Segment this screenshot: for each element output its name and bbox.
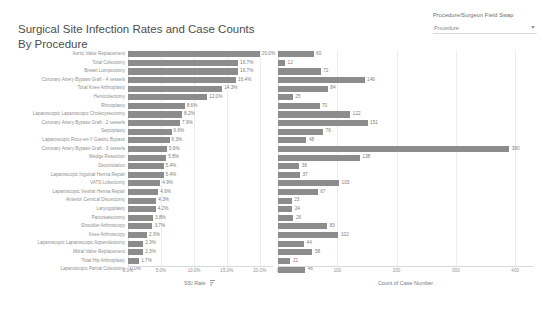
- axis-tick-label: 0.0%: [123, 268, 133, 273]
- case-count-bar[interactable]: [278, 206, 292, 212]
- chart-row[interactable]: Aortic Valve Replacement20.0%60: [0, 50, 543, 59]
- chart-row[interactable]: Coronary Artery Bypass Graft - 4 vessels…: [0, 76, 543, 85]
- ssi-rate-bar[interactable]: [128, 137, 170, 143]
- case-count-bar[interactable]: [278, 172, 300, 178]
- case-count-bar[interactable]: [278, 51, 314, 57]
- ssi-rate-bar[interactable]: [128, 241, 143, 247]
- case-count-bar[interactable]: [278, 223, 327, 229]
- chart-row[interactable]: Total Colectomy16.7%12: [0, 59, 543, 68]
- chart-row[interactable]: Septoplasty6.6%76: [0, 127, 543, 136]
- case-count-bar[interactable]: [278, 180, 339, 186]
- ssi-rate-bar[interactable]: [128, 146, 167, 152]
- field-swap-dropdown[interactable]: Procedure: [433, 23, 537, 34]
- chart-row[interactable]: Laparoscopic Ventral Hernia Repair4.6%67: [0, 188, 543, 197]
- chart-row[interactable]: Laparoscopic Laparoscopic Appendectomy2.…: [0, 239, 543, 248]
- chart-row[interactable]: Hemicolectomy12.0%25: [0, 93, 543, 102]
- ssi-rate-bar[interactable]: [128, 60, 238, 66]
- row-category-label: Shoulder Arthroscopy: [0, 222, 128, 231]
- ssi-rate-value-label: 4.2%: [158, 205, 169, 214]
- case-count-cell: 37: [278, 171, 533, 180]
- ssi-rate-bar[interactable]: [128, 249, 143, 255]
- case-count-bar[interactable]: [278, 258, 290, 264]
- chart-row[interactable]: Breast Lumpectomy16.7%72: [0, 67, 543, 76]
- chart-row[interactable]: Decortication5.4%36: [0, 162, 543, 171]
- chart-row[interactable]: Knee Arthroscopy2.9%102: [0, 231, 543, 240]
- chart-row[interactable]: Rhinoplasty8.6%70: [0, 102, 543, 111]
- chart-row[interactable]: Total Knee Arthroplasty14.3%84: [0, 84, 543, 93]
- ssi-rate-bar[interactable]: [128, 198, 156, 204]
- case-count-cell: 25: [278, 93, 533, 102]
- ssi-rate-bar[interactable]: [128, 189, 158, 195]
- ssi-rate-cell: 4.6%: [128, 188, 273, 197]
- ssi-rate-bar[interactable]: [128, 68, 238, 74]
- chart-row[interactable]: Shoulder Arthroscopy3.7%83: [0, 222, 543, 231]
- ssi-rate-value-label: 20.0%: [262, 50, 275, 59]
- chart-row[interactable]: Anterior Cervical Discectomy4.3%23: [0, 196, 543, 205]
- case-count-bar[interactable]: [278, 189, 318, 195]
- case-count-bar[interactable]: [278, 163, 299, 169]
- ssi-rate-bar[interactable]: [128, 172, 164, 178]
- ssi-rate-value-label: 6.3%: [172, 136, 183, 145]
- case-count-bar[interactable]: [278, 146, 509, 152]
- case-count-value-label: 151: [370, 119, 378, 128]
- chart-row[interactable]: VATS Lobectomy4.9%103: [0, 179, 543, 188]
- ssi-rate-bar[interactable]: [128, 120, 180, 126]
- chart-row[interactable]: Laryngoplasty4.2%24: [0, 205, 543, 214]
- chart-row[interactable]: Wedge Resection5.8%138: [0, 153, 543, 162]
- ssi-rate-bar[interactable]: [128, 215, 153, 221]
- ssi-rate-bar[interactable]: [128, 155, 166, 161]
- ssi-rate-bar[interactable]: [128, 77, 236, 83]
- case-count-bar[interactable]: [278, 137, 306, 143]
- chart-row[interactable]: Laparoscopic Inguinal Hernia Repair5.4%3…: [0, 171, 543, 180]
- ssi-rate-bar[interactable]: [128, 163, 164, 169]
- case-count-bar[interactable]: [278, 120, 368, 126]
- ssi-rate-cell: 3.8%: [128, 214, 273, 223]
- ssi-rate-bar[interactable]: [128, 129, 172, 135]
- case-count-value-label: 60: [316, 50, 321, 59]
- case-count-bar[interactable]: [278, 249, 312, 255]
- ssi-rate-cell: 5.4%: [128, 171, 273, 180]
- case-count-value-label: 25: [295, 93, 300, 102]
- chart-row[interactable]: Laparoscopic Laparoscopic Cholecystectom…: [0, 110, 543, 119]
- row-category-label: VATS Lobectomy: [0, 179, 128, 188]
- case-count-bar[interactable]: [278, 129, 323, 135]
- case-count-bar[interactable]: [278, 77, 365, 83]
- case-count-bar[interactable]: [278, 241, 304, 247]
- ssi-rate-bar[interactable]: [128, 223, 152, 229]
- field-swap-filter-label: Procedure/Surgeon Field Swap: [433, 12, 537, 18]
- axis-tick-label: 200: [393, 268, 401, 273]
- case-count-value-label: 72: [323, 67, 328, 76]
- case-count-bar[interactable]: [278, 111, 350, 117]
- ssi-rate-bar[interactable]: [128, 94, 207, 100]
- ssi-rate-bar[interactable]: [128, 232, 147, 238]
- descending-sort-icon[interactable]: [210, 280, 217, 287]
- chart-row[interactable]: Laparoscopic Roux-en-Y Gastric Bypass6.3…: [0, 136, 543, 145]
- chart-row[interactable]: Total Hip Arthroplasty1.7%21: [0, 257, 543, 266]
- ssi-rate-bar[interactable]: [128, 103, 185, 109]
- chart-row[interactable]: Coronary Artery Bypass Graft - 3 vessels…: [0, 145, 543, 154]
- case-count-value-label: 70: [322, 102, 327, 111]
- ssi-rate-cell: 14.3%: [128, 84, 273, 93]
- row-category-label: Total Colectomy: [0, 59, 128, 68]
- ssi-rate-value-label: 16.7%: [240, 59, 253, 68]
- case-count-bar[interactable]: [278, 86, 328, 92]
- chart-row[interactable]: Mitral Valve Replacement2.3%58: [0, 248, 543, 257]
- case-count-bar[interactable]: [278, 60, 285, 66]
- chart-row[interactable]: Coronary Artery Bypass Graft - 2 vessels…: [0, 119, 543, 128]
- ssi-rate-axis-title: SSI Rate: [128, 280, 273, 287]
- case-count-bar[interactable]: [278, 155, 360, 161]
- case-count-bar[interactable]: [278, 94, 293, 100]
- ssi-rate-bar[interactable]: [128, 111, 182, 117]
- ssi-rate-bar[interactable]: [128, 86, 222, 92]
- case-count-bar[interactable]: [278, 198, 292, 204]
- case-count-bar[interactable]: [278, 232, 338, 238]
- case-count-bar[interactable]: [278, 215, 293, 221]
- case-count-bar[interactable]: [278, 103, 320, 109]
- case-count-bar[interactable]: [278, 68, 321, 74]
- ssi-rate-bar[interactable]: [128, 206, 156, 212]
- chart-row[interactable]: Pancreatectomy3.8%26: [0, 214, 543, 223]
- ssi-rate-bar[interactable]: [128, 180, 160, 186]
- ssi-rate-bar[interactable]: [128, 258, 139, 264]
- ssi-rate-value-label: 4.3%: [158, 196, 169, 205]
- ssi-rate-bar[interactable]: [128, 51, 260, 57]
